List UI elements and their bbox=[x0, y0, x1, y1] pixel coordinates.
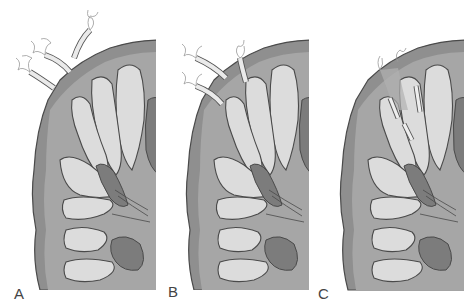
panel-label-b: B bbox=[168, 283, 178, 300]
panel-label-a: A bbox=[14, 285, 24, 302]
tissue-illustration-c bbox=[308, 0, 467, 305]
panel-a: A bbox=[0, 0, 156, 305]
panel-b: B bbox=[154, 0, 310, 305]
panel-label-c: C bbox=[318, 285, 329, 302]
tissue-illustration-b bbox=[154, 0, 310, 305]
tissue-illustration-a bbox=[0, 0, 156, 305]
panel-c: C bbox=[308, 0, 467, 305]
